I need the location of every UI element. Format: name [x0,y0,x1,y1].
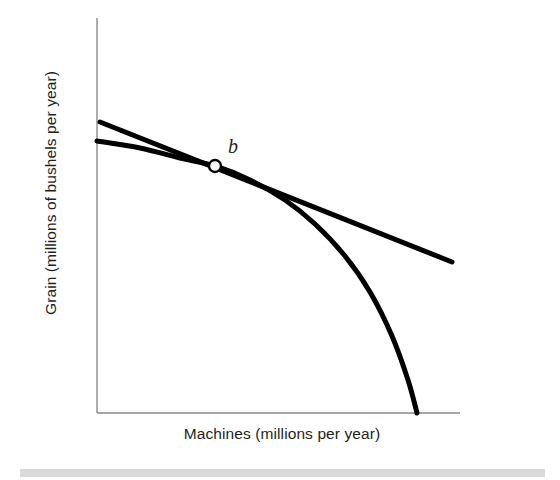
point-b-label: b [228,136,238,156]
y-axis-label: Grain (millions of bushels per year) [42,0,66,408]
x-axis-label: Machines (millions per year) [97,425,467,443]
chart-figure: Grain (millions of bushels per year) Mac… [0,0,560,480]
chart-plot-area [0,0,560,480]
footer-divider-band [20,469,545,477]
production-possibilities-frontier-curve [97,141,417,413]
point-b-marker [209,160,221,172]
